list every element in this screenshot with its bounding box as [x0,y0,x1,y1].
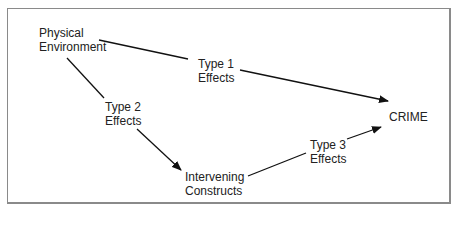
node-crime: CRIME [389,110,428,124]
edge-label-type2: Type 2 Effects [105,100,141,128]
edge-label-type3: Type 3 Effects [310,138,346,166]
edge-type2-segment-b [137,129,181,170]
edge-type1-segment-a [99,40,188,59]
node-intervening-constructs: Intervening Constructs [185,170,244,198]
edge-type3-segment-a [248,153,306,176]
edge-type3-segment-b [347,127,381,139]
node-physical-environment: Physical Environment [39,26,106,54]
edge-label-type1: Type 1 Effects [198,57,234,85]
edge-type1-segment-b [240,70,388,101]
edge-type2-segment-a [67,58,104,98]
